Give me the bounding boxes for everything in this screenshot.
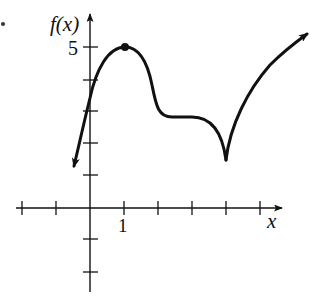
x-tick-label-1: 1 [118, 216, 128, 235]
function-graph [0, 0, 316, 297]
y-tick-label-5: 5 [68, 38, 78, 58]
curve-middle [125, 47, 226, 160]
curve-right-branch [226, 34, 307, 160]
x-axis-label: x [267, 211, 276, 232]
stray-mark [1, 22, 5, 26]
local-max-point [121, 43, 129, 51]
curve-left-branch [74, 47, 125, 166]
y-axis-label: f(x) [50, 14, 79, 35]
